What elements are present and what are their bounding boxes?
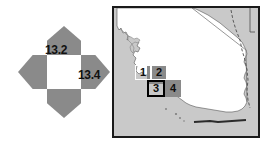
study-box-4[interactable]: 4 (165, 80, 181, 97)
study-box-1[interactable]: 1 (135, 65, 151, 80)
study-box-3-label: 3 (153, 83, 159, 94)
study-box-1-label: 1 (140, 67, 146, 78)
study-box-3[interactable]: 3 (147, 80, 165, 97)
figure-root: 13.2 13.4 (0, 0, 267, 151)
channel-island-dot (179, 117, 181, 119)
rose-center-square (47, 55, 81, 89)
study-box-2-label: 2 (156, 67, 162, 78)
study-box-2[interactable]: 2 (151, 65, 167, 80)
channel-island-dot (175, 113, 177, 115)
compass-rose: 13.2 13.4 (18, 26, 110, 118)
california-map-frame: 1 2 3 4 (112, 6, 260, 138)
channel-island-dot (165, 108, 167, 110)
rose-label-north: 13.2 (45, 44, 67, 56)
rose-label-east: 13.4 (78, 69, 100, 81)
channel-island-dot (183, 120, 185, 122)
study-box-4-label: 4 (170, 83, 176, 94)
